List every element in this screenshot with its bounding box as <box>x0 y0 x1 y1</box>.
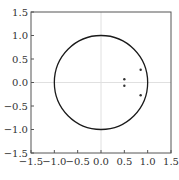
y-tick-label: −0.5 <box>4 101 28 112</box>
y-tick-label: 0.5 <box>12 54 28 65</box>
y-tick-label: −1.0 <box>4 124 28 135</box>
y-axis-ticks: 1.51.00.50.0−0.5−1.0−1.5 <box>4 7 34 159</box>
x-tick-label: 0.0 <box>93 156 109 167</box>
unit-circle-chart: −1.5−1.0−0.50.00.51.01.5 1.51.00.50.0−0.… <box>0 0 179 180</box>
data-point <box>139 94 141 96</box>
y-tick-label: 1.0 <box>12 30 28 41</box>
crosshair-lines <box>31 12 171 153</box>
x-tick-label: 1.0 <box>140 156 156 167</box>
data-point <box>123 78 125 80</box>
y-tick-label: 1.5 <box>12 7 28 18</box>
data-point <box>139 69 141 71</box>
x-tick-label: −0.5 <box>66 156 90 167</box>
x-tick-label: 1.5 <box>163 156 179 167</box>
x-tick-label: −1.0 <box>42 156 66 167</box>
y-tick-label: 0.0 <box>12 77 28 88</box>
data-point <box>123 85 125 87</box>
x-tick-label: 0.5 <box>116 156 132 167</box>
y-tick-label: −1.5 <box>4 148 28 159</box>
